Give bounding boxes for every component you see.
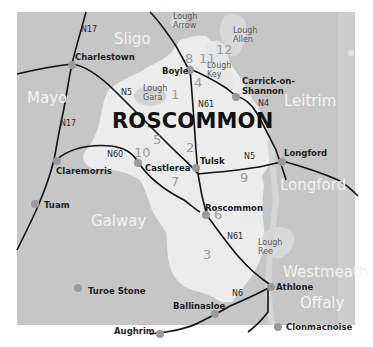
site-number-8: 8 xyxy=(185,52,193,65)
site-number-5: 5 xyxy=(153,133,161,146)
road-label-n17-south: N17 xyxy=(60,120,76,128)
county-label-mayo: Mayo xyxy=(27,91,67,106)
town-label-aughrim: Aughrim xyxy=(114,327,155,336)
site-number-3: 3 xyxy=(203,248,211,261)
lake-arrow-line2: Arrow xyxy=(173,21,196,30)
site-number-1: 1 xyxy=(171,88,179,101)
dot-ballinasloe xyxy=(211,310,219,318)
road-label-n60: N60 xyxy=(107,151,123,159)
county-label-longford: Longford xyxy=(280,178,346,193)
town-label-charlestown: Charlestown xyxy=(75,53,135,62)
dot-castlerea xyxy=(134,159,142,167)
lake-allen-line2: Allen xyxy=(233,35,253,44)
lake-gara-line2: Gara xyxy=(143,93,162,102)
town-label-claremorris: Claremorris xyxy=(56,167,112,176)
town-label-ballinasloe: Ballinasloe xyxy=(173,302,225,311)
county-label-leitrim: Leitrim xyxy=(284,94,336,109)
road-label-n5-east: N5 xyxy=(244,153,255,161)
lake-label-ree: LoughRee xyxy=(258,238,282,256)
road-label-n6: N6 xyxy=(232,290,243,298)
town-label-tulsk: Tulsk xyxy=(200,157,225,166)
site-number-12: 12 xyxy=(216,43,233,56)
dot-claremorris xyxy=(53,157,61,165)
dot-longford xyxy=(278,158,286,166)
site-number-9: 9 xyxy=(240,171,248,184)
dot-turoe-stone xyxy=(74,284,82,292)
dot-tuam xyxy=(31,200,39,208)
road-label-n61-south: N61 xyxy=(227,233,243,241)
town-label-clonmacnoise: Clonmacnoise xyxy=(286,323,352,332)
road-label-n5-west: N5 xyxy=(121,89,132,97)
town-label-tuam: Tuam xyxy=(44,201,70,210)
road-label-n61-north: N61 xyxy=(198,101,214,109)
county-label-offaly: Offaly xyxy=(300,296,344,311)
road-label-n17-north: N17 xyxy=(81,26,97,34)
lake-label-arrow: LoughArrow xyxy=(173,12,197,30)
lake-key-line2: Key xyxy=(207,70,222,79)
site-number-7: 7 xyxy=(171,175,179,188)
town-label-castlerea: Castlerea xyxy=(145,164,190,173)
town-label-boyle: Boyle xyxy=(162,67,189,76)
site-number-6: 6 xyxy=(214,208,222,221)
dot-aughrim xyxy=(156,330,164,338)
map-title: ROSCOMMON xyxy=(112,111,273,132)
town-label-turoe-stone: Turoe Stone xyxy=(88,287,146,296)
lake-ree-line1: Lough xyxy=(258,238,282,247)
town-label-athlone: Athlone xyxy=(276,283,313,292)
dot-athlone xyxy=(267,283,275,291)
road-label-n4: N4 xyxy=(258,100,269,108)
county-label-westmeath: Westmeath xyxy=(283,265,368,280)
lake-allen-line1: Lough xyxy=(233,26,257,35)
site-number-11: 11 xyxy=(199,52,216,65)
dot-charlestown xyxy=(68,61,76,69)
dot-clonmacnoise xyxy=(274,323,282,331)
county-label-galway: Galway xyxy=(91,214,146,229)
lake-label-gara: LoughGara xyxy=(143,84,167,102)
lake-ree-line2: Ree xyxy=(258,247,273,256)
site-number-2: 2 xyxy=(186,141,194,154)
marker-circle xyxy=(348,50,354,56)
lake-gara-line1: Lough xyxy=(143,84,167,93)
lake-label-allen: LoughAllen xyxy=(233,26,257,44)
site-number-4: 4 xyxy=(194,76,202,89)
site-number-10: 10 xyxy=(134,146,151,159)
dot-tulsk xyxy=(192,164,200,172)
county-label-sligo: Sligo xyxy=(114,32,151,47)
town-label-longford: Longford xyxy=(284,149,327,158)
roscommon-map: ROSCOMMON Sligo Mayo Leitrim Longford Ga… xyxy=(0,0,373,347)
town-label-carrick-line2: Shannon xyxy=(242,87,284,96)
lake-arrow-line1: Lough xyxy=(173,12,197,21)
dot-carrick xyxy=(232,93,240,101)
town-label-carrick-line1: Carrick-on- xyxy=(242,77,295,86)
